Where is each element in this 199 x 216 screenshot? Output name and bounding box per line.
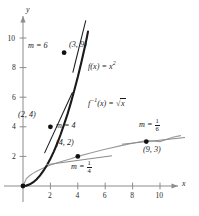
fraction-numerator: 1 bbox=[87, 160, 92, 167]
slope-label-4: m = 4 bbox=[56, 122, 76, 130]
x-axis-arrowhead bbox=[172, 183, 179, 188]
radical-body: x bbox=[120, 98, 125, 108]
tangent-line-9-3 bbox=[122, 138, 185, 145]
point-label-2-4: (2, 4) bbox=[18, 111, 36, 119]
fraction-denominator: 4 bbox=[87, 167, 92, 175]
x-tick-label-2: 2 bbox=[48, 192, 52, 200]
y-axis-label: y bbox=[26, 6, 30, 14]
slope-sixth-prefix: m = bbox=[139, 120, 155, 129]
fraction-denominator: 6 bbox=[155, 125, 160, 133]
finv-paren: (x) = bbox=[97, 99, 116, 108]
point-label-9-3: (9, 3) bbox=[143, 146, 161, 154]
fraction-one-quarter: 14 bbox=[87, 160, 92, 174]
function-label-f-inverse: f−1(x) = √x bbox=[88, 98, 126, 108]
fraction-one-sixth: 16 bbox=[155, 118, 160, 132]
y-tick-label-4: 4 bbox=[12, 123, 16, 131]
fraction-numerator: 1 bbox=[155, 118, 160, 125]
y-axis bbox=[20, 16, 27, 202]
x-tick-label-8: 8 bbox=[130, 192, 134, 200]
f-exponent: 2 bbox=[113, 60, 116, 66]
x-tick-label-4: 4 bbox=[75, 192, 79, 200]
data-point-3-9 bbox=[62, 50, 67, 55]
figure-container: y x 2 4 6 8 10 2 4 6 8 10 m = 6 (3, 9) (… bbox=[0, 0, 199, 216]
y-tick-label-2: 2 bbox=[12, 153, 16, 161]
x-axis-label: x bbox=[182, 180, 186, 188]
y-tick-label-10: 10 bbox=[7, 35, 15, 43]
point-label-4-2: (4, 2) bbox=[56, 139, 74, 147]
data-point-2-4 bbox=[48, 124, 53, 129]
plot-svg bbox=[0, 0, 199, 216]
slope-quarter-prefix: m = bbox=[71, 162, 87, 171]
y-tick-label-8: 8 bbox=[12, 64, 16, 72]
data-point-4-2 bbox=[75, 154, 80, 159]
slope-label-one-quarter: m = 14 bbox=[71, 160, 92, 174]
curve-sqrt bbox=[23, 136, 181, 186]
function-label-f: f(x) = x2 bbox=[88, 61, 116, 71]
y-axis-arrowhead bbox=[20, 16, 25, 23]
f-paren: (x) = bbox=[90, 62, 109, 71]
slope-label-6: m = 6 bbox=[28, 42, 48, 50]
x-tick-label-10: 10 bbox=[155, 192, 163, 200]
data-point-9-3 bbox=[144, 139, 149, 144]
y-tick-label-6: 6 bbox=[12, 94, 16, 102]
x-tick-label-6: 6 bbox=[103, 192, 107, 200]
slope-label-one-sixth: m = 16 bbox=[139, 118, 160, 132]
point-label-3-9: (3, 9) bbox=[69, 41, 87, 49]
data-point-origin bbox=[21, 184, 26, 189]
